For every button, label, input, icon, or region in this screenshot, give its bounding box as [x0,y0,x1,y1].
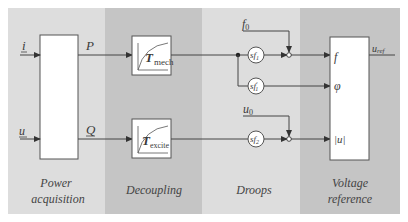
band-label-decoupling: Decoupling [125,183,182,197]
tmech-filter-block: T mech [132,36,174,75]
svg-text:sf′1: sf′1 [250,81,258,92]
svg-text:mech: mech [154,57,174,67]
out-phi-label: φ [334,79,341,93]
svg-text:excite: excite [150,141,170,150]
sf1-prime-gain-block: sf′1 [248,78,264,94]
sum-node-u [287,137,292,142]
band-label-power: Power [39,176,72,190]
input-i-label: i [22,38,26,53]
band-label-droops: Droops [235,183,272,197]
sf2-gain-block: sf2 [248,131,264,147]
band-label-acquisition: acquisition [31,192,84,206]
power-acquisition-block [40,35,78,159]
sf1-gain-block: sf1 [248,47,264,63]
droop-control-diagram: i u P Q T mech T excite sf1 f0 sf′1 [0,0,408,222]
sum-node-f [287,53,292,58]
out-u-label: |u| [334,133,346,145]
svg-text:T: T [145,50,154,65]
p-label: P [85,38,94,53]
band-label-voltage: Voltage [332,176,369,190]
input-u-label: u [19,124,25,138]
texcite-filter-block: T excite [132,119,171,158]
band-label-reference: reference [328,192,373,206]
q-label: Q [86,122,96,137]
